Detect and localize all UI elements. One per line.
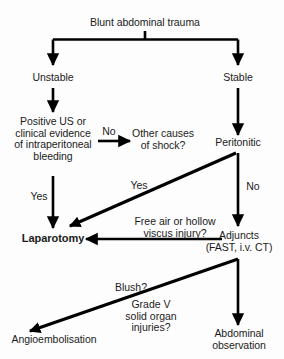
edge-label-blush: Blush? — [108, 282, 154, 294]
edge-label-no-other-causes: No — [98, 126, 120, 138]
edge-label-yes-peritonitic: Yes — [124, 180, 154, 192]
node-stable: Stable — [205, 72, 271, 84]
edge-label-no-peritonitic: No — [242, 181, 264, 193]
node-blunt-abdominal-trauma: Blunt abdominal trauma — [60, 17, 230, 29]
node-positive-us-or-clinical-evidence: Positive US or clinical evidence of intr… — [0, 116, 106, 162]
node-peritonitic: Peritonitic — [205, 137, 271, 149]
node-other-causes-of-shock: Other causes of shock? — [126, 128, 200, 151]
node-laparotomy: Laparotomy — [8, 233, 98, 245]
edge-label-yes-bleeding: Yes — [24, 191, 54, 203]
edge-label-free-air-or-hollow-viscus-injury: Free air or hollow viscus injury? — [116, 216, 234, 239]
node-abdominal-observation: Abdominal observation — [200, 328, 278, 351]
edge-label-grade-v-solid-organ-injuries: Grade V solid organ injuries? — [118, 299, 184, 334]
node-angioembolisation: Angioembolisation — [0, 334, 108, 346]
flowchart-diagram: Other causes of shock? --> Laparotomy (v… — [0, 0, 284, 359]
node-unstable: Unstable — [13, 72, 93, 84]
